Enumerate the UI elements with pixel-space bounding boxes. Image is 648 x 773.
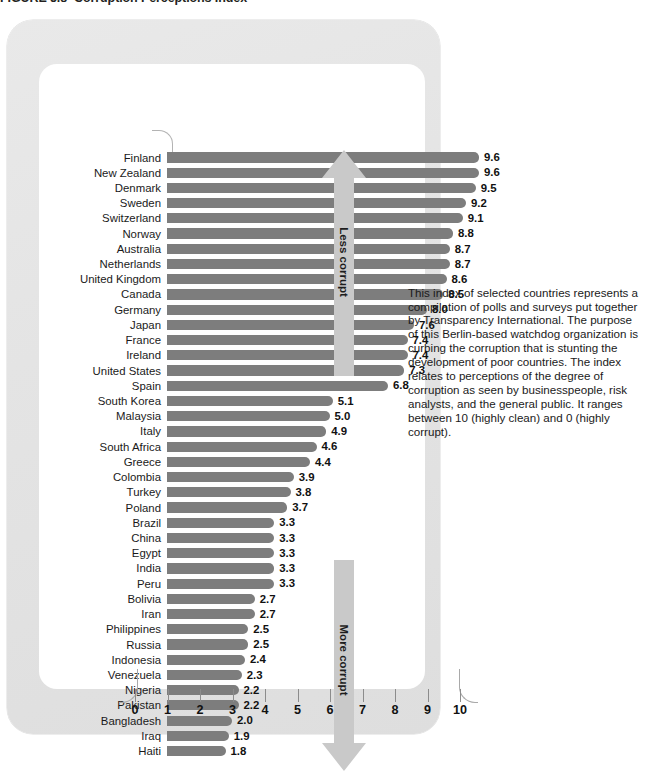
bar <box>167 320 414 330</box>
bar-row: Haiti1.8 <box>39 744 425 759</box>
axis-tick <box>460 689 461 702</box>
bar <box>167 487 291 497</box>
axis-tick <box>265 689 266 702</box>
axis-tick-label: 10 <box>453 703 467 717</box>
bar-category-label: Philippines <box>43 622 161 636</box>
axis-tick <box>363 689 364 702</box>
axis-tick-label: 1 <box>164 703 171 717</box>
bar <box>167 305 427 315</box>
side-note-paragraph: This index of selected countries represe… <box>408 286 644 439</box>
bar-row: Sweden9.2 <box>39 196 425 211</box>
bar-row: Japan7.6 <box>39 317 425 332</box>
bar <box>167 670 242 680</box>
bar <box>167 213 463 223</box>
bar-value-label: 2.3 <box>247 668 263 682</box>
bar-row: Ireland7.4 <box>39 348 425 363</box>
bar <box>167 472 294 482</box>
bar <box>167 396 333 406</box>
bar <box>167 183 476 193</box>
bar-row: New Zealand9.6 <box>39 165 425 180</box>
bar-category-label: Haiti <box>43 744 161 758</box>
bar <box>167 426 326 436</box>
bar-category-label: Sweden <box>43 196 161 210</box>
figure-number: FIGURE 5.8 <box>0 0 67 5</box>
bar-category-label: Netherlands <box>43 257 161 271</box>
bar-category-label: Venezuela <box>43 668 161 682</box>
bar <box>167 655 245 665</box>
bar-row: Netherlands8.7 <box>39 257 425 272</box>
axis-tick <box>330 689 331 702</box>
axis-tick <box>233 689 234 702</box>
bar-value-label: 3.3 <box>279 576 295 590</box>
bar-category-label: Russia <box>43 638 161 652</box>
bar-row: Germany8.0 <box>39 302 425 317</box>
bar <box>167 548 274 558</box>
bar-value-label: 1.9 <box>234 729 250 743</box>
bar <box>167 152 479 162</box>
axis-tick-label: 9 <box>424 703 431 717</box>
bar <box>167 335 408 345</box>
bar-category-label: New Zealand <box>43 166 161 180</box>
bar-row: Iraq1.9 <box>39 728 425 743</box>
bar <box>167 518 274 528</box>
axis-tick-label: 8 <box>391 703 398 717</box>
bar-value-label: 3.9 <box>299 470 315 484</box>
bar <box>167 198 466 208</box>
bar-value-label: 2.7 <box>260 607 276 621</box>
bar <box>167 411 330 421</box>
bar-category-label: Malaysia <box>43 409 161 423</box>
bar-category-label: United Kingdom <box>43 272 161 286</box>
bar-category-label: Turkey <box>43 485 161 499</box>
bar-category-label: Ireland <box>43 348 161 362</box>
bar-category-label: South Korea <box>43 394 161 408</box>
bar-row: Colombia3.9 <box>39 470 425 485</box>
bar-category-label: France <box>43 333 161 347</box>
bar-value-label: 4.6 <box>322 439 338 453</box>
bar <box>167 228 453 238</box>
bar-category-label: Canada <box>43 287 161 301</box>
axis-tick-label: 4 <box>261 703 268 717</box>
bar-value-label: 3.3 <box>279 561 295 575</box>
bar-value-label: 2.4 <box>250 652 266 666</box>
bar-value-label: 3.8 <box>296 485 312 499</box>
bar-row: Iran2.7 <box>39 607 425 622</box>
bar-value-label: 1.8 <box>231 744 247 758</box>
bar <box>167 579 274 589</box>
axis-tick-label: 7 <box>359 703 366 717</box>
bar-category-label: Norway <box>43 227 161 241</box>
bar-category-label: Indonesia <box>43 653 161 667</box>
bar-category-label: China <box>43 531 161 545</box>
figure-inner-panel: Finland9.6New Zealand9.6Denmark9.5Sweden… <box>39 64 425 689</box>
bar <box>167 563 274 573</box>
bar-value-label: 4.9 <box>331 424 347 438</box>
axis-tick-label: 0 <box>131 703 138 717</box>
bar-row: Italy4.9 <box>39 424 425 439</box>
bar-row: Finland9.6 <box>39 150 425 165</box>
bar <box>167 609 255 619</box>
bar-row: Turkey3.8 <box>39 485 425 500</box>
bar-category-label: Iran <box>43 607 161 621</box>
bar-category-label: Italy <box>43 424 161 438</box>
bar-value-label: 9.1 <box>468 211 484 225</box>
bar <box>167 244 450 254</box>
figure-title: FIGURE 5.8Corruption Perceptions Index <box>0 0 420 9</box>
bar-value-label: 2.5 <box>253 637 269 651</box>
bar-row: Brazil3.3 <box>39 515 425 530</box>
bar <box>167 731 229 741</box>
bar-category-label: Switzerland <box>43 211 161 225</box>
bar-category-label: Poland <box>43 501 161 515</box>
bar <box>167 259 450 269</box>
bar <box>167 274 447 284</box>
bar-category-label: Iraq <box>43 729 161 743</box>
bar <box>167 168 479 178</box>
bar-row: Poland3.7 <box>39 500 425 515</box>
bar-category-label: Australia <box>43 242 161 256</box>
bar-category-label: South Africa <box>43 440 161 454</box>
axis-tick-label: 2 <box>196 703 203 717</box>
bar-value-label: 4.4 <box>315 455 331 469</box>
bar <box>167 746 226 756</box>
bar-value-label: 5.1 <box>338 394 354 408</box>
bar-row: United States7.3 <box>39 363 425 378</box>
axis-tick-label: 3 <box>229 703 236 717</box>
bar-row: Denmark9.5 <box>39 180 425 195</box>
